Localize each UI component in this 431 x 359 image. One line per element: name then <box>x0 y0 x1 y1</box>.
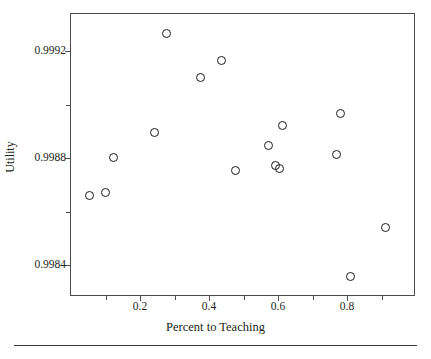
x-minor-tick <box>175 295 176 300</box>
y-minor-tick <box>66 212 71 213</box>
x-tick-label: 0.2 <box>133 301 147 313</box>
y-tick-label: 0.9988 <box>34 152 66 164</box>
data-point <box>264 141 273 150</box>
x-minor-tick <box>106 295 107 300</box>
plot-area: 0.99840.99880.9992 0.20.40.60.8 <box>70 13 415 296</box>
data-point <box>85 191 94 200</box>
y-axis-title: Utility <box>3 141 18 172</box>
data-point <box>101 188 110 197</box>
footer-divider <box>14 345 417 346</box>
data-point <box>278 121 287 130</box>
data-point <box>162 29 171 38</box>
data-point <box>336 109 345 118</box>
data-point <box>346 272 355 281</box>
data-point <box>275 164 284 173</box>
data-point <box>381 223 390 232</box>
data-point <box>196 73 205 82</box>
y-tick-label: 0.9984 <box>34 259 66 271</box>
data-point <box>217 56 226 65</box>
x-tick-label: 0.6 <box>271 301 285 313</box>
y-tick-label: 0.9992 <box>34 46 66 58</box>
scatter-plot-figure: Utility 0.99840.99880.9992 0.20.40.60.8 … <box>0 0 431 359</box>
x-tick-label: 0.4 <box>202 301 216 313</box>
x-minor-tick <box>382 295 383 300</box>
data-point <box>109 153 118 162</box>
data-point <box>332 150 341 159</box>
data-point <box>150 128 159 137</box>
x-minor-tick <box>244 295 245 300</box>
x-axis-title: Percent to Teaching <box>0 320 431 335</box>
data-point <box>231 166 240 175</box>
x-tick-label: 0.8 <box>340 301 354 313</box>
x-minor-tick <box>313 295 314 300</box>
y-minor-tick <box>66 105 71 106</box>
